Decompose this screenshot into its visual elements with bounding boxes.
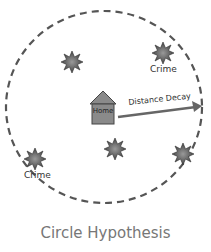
crime-star-icon bbox=[104, 138, 126, 160]
home-label: Home bbox=[92, 107, 114, 115]
crime-star-icon bbox=[24, 148, 46, 170]
crime-star-icon bbox=[61, 51, 83, 73]
circle-hypothesis-diagram bbox=[0, 0, 211, 252]
crime-star-icon bbox=[152, 42, 174, 64]
crime-star-icon bbox=[172, 143, 194, 165]
diagram-title: Circle Hypothesis bbox=[0, 224, 211, 242]
crime-label: Crime bbox=[150, 64, 177, 74]
crime-label: Crime bbox=[24, 170, 51, 180]
